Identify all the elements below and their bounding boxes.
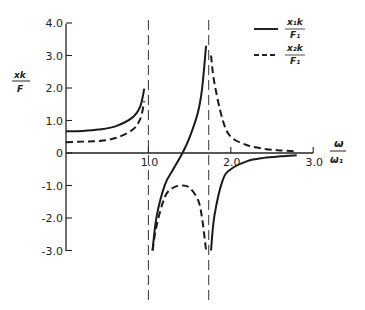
x-ticks: 1.02.03.0 <box>141 147 323 169</box>
curve-x1 <box>153 46 207 251</box>
y-tick-label: 4.0 <box>46 17 64 30</box>
x-axis-label: ω ω₁ <box>330 137 346 165</box>
y-ticks: 4.03.02.01.00-1.0-2.0-3.0 <box>42 17 72 258</box>
curves <box>66 46 297 251</box>
curve-x1 <box>66 89 144 132</box>
x-tick-label: 1.0 <box>141 156 159 169</box>
curve-x2 <box>211 56 297 152</box>
y-tick-label: 2.0 <box>46 82 64 95</box>
y-axis-label: xk F <box>12 70 30 94</box>
x-label-numerator: ω <box>334 137 344 150</box>
legend-item-x2: x₂k F₁ <box>254 43 305 66</box>
curve-x1 <box>211 155 297 250</box>
legend-x1-numerator: x₁k <box>286 17 304 27</box>
y-label-numerator: xk <box>13 70 27 80</box>
curve-x2 <box>66 101 144 142</box>
legend-x2-numerator: x₂k <box>286 43 304 53</box>
legend-item-x1: x₁k F₁ <box>254 17 305 40</box>
y-label-denominator: F <box>17 84 24 94</box>
legend-x2-denominator: F₁ <box>290 56 300 66</box>
legend: x₁k F₁ x₂k F₁ <box>254 17 305 66</box>
y-tick-label: 0 <box>56 147 63 160</box>
x-tick-label: 2.0 <box>223 156 241 169</box>
y-tick-label: -2.0 <box>42 212 63 225</box>
y-tick-label: 3.0 <box>46 50 64 63</box>
legend-x1-denominator: F₁ <box>290 30 300 40</box>
y-tick-label: 1.0 <box>46 115 64 128</box>
x-label-denominator: ω₁ <box>330 154 343 165</box>
frequency-response-chart: 4.03.02.01.00-1.0-2.0-3.0 1.02.03.0 xk F… <box>0 0 365 310</box>
y-tick-label: -3.0 <box>42 245 63 258</box>
y-tick-label: -1.0 <box>42 180 63 193</box>
x-tick-label: 3.0 <box>305 156 323 169</box>
